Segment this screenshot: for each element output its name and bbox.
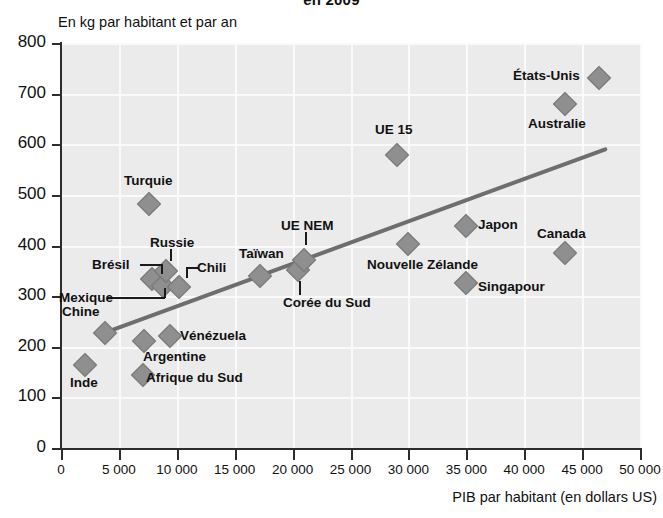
x-tick xyxy=(351,450,353,460)
y-tick-label: 500 xyxy=(0,184,46,204)
x-tick-label: 20 000 xyxy=(272,462,313,477)
y-tick xyxy=(52,94,61,96)
y-tick xyxy=(52,246,61,248)
x-tick xyxy=(235,450,237,460)
y-tick xyxy=(52,43,61,45)
point-label-japon: Japon xyxy=(478,218,518,232)
x-tick xyxy=(466,450,468,460)
y-tick-label: 0 xyxy=(0,437,46,457)
point-label-argentine: Argentine xyxy=(143,350,206,364)
y-tick-label: 800 xyxy=(0,32,46,52)
x-tick xyxy=(293,450,295,460)
gridline-horizontal xyxy=(61,397,640,399)
x-tick xyxy=(582,450,584,460)
x-tick xyxy=(524,450,526,460)
x-tick-label: 15 000 xyxy=(214,462,255,477)
x-tick-label: 50 000 xyxy=(619,462,660,477)
point-label-inde: Inde xyxy=(70,376,98,390)
point-label-turquie: Turquie xyxy=(124,174,173,188)
point-label-bresil: Brésil xyxy=(92,258,130,272)
y-tick xyxy=(52,397,61,399)
gridline-horizontal xyxy=(61,246,640,248)
point-label-australie: Australie xyxy=(528,117,586,131)
point-label-mexique: Mexique xyxy=(59,291,113,305)
point-label-venezuela: Vénézuela xyxy=(180,329,246,343)
point-label-afrique_du_sud: Afrique du Sud xyxy=(146,371,243,385)
y-tick xyxy=(52,144,61,146)
point-label-chine: Chine xyxy=(62,305,100,319)
y-tick xyxy=(52,195,61,197)
point-label-canada: Canada xyxy=(537,227,586,241)
y-tick-label: 400 xyxy=(0,235,46,255)
point-label-ue_nem: UE NEM xyxy=(281,219,334,233)
label-leader-line xyxy=(299,281,301,295)
label-leader-line xyxy=(161,264,163,274)
x-tick-label: 0 xyxy=(57,462,65,477)
y-tick-label: 700 xyxy=(0,83,46,103)
gridline-vertical xyxy=(640,43,642,448)
y-tick-label: 100 xyxy=(0,386,46,406)
x-tick-label: 5 000 xyxy=(102,462,136,477)
x-tick-label: 25 000 xyxy=(330,462,371,477)
label-leader-line xyxy=(305,232,307,245)
label-leader-line xyxy=(108,297,165,299)
gridline-horizontal xyxy=(61,43,640,45)
point-label-singapour: Singapour xyxy=(478,280,545,294)
point-label-coree_du_sud: Corée du Sud xyxy=(283,296,371,310)
x-tick xyxy=(177,450,179,460)
point-label-chili: Chili xyxy=(197,261,226,275)
point-label-etats_unis: États-Unis xyxy=(513,69,580,83)
y-tick-label: 300 xyxy=(0,285,46,305)
label-leader-line xyxy=(186,267,188,278)
chart-title: en 2009 xyxy=(0,0,663,8)
label-leader-line xyxy=(140,264,162,266)
y-tick-label: 600 xyxy=(0,133,46,153)
x-tick xyxy=(119,450,121,460)
x-tick-label: 40 000 xyxy=(504,462,545,477)
x-tick xyxy=(61,450,63,460)
y-tick xyxy=(52,347,61,349)
x-tick xyxy=(640,450,642,460)
chart-figure: en 2009 En kg par habitant et par an PIB… xyxy=(0,0,663,518)
point-label-taiwan: Taïwan xyxy=(239,247,284,261)
gridline-horizontal xyxy=(61,94,640,96)
x-tick xyxy=(408,450,410,460)
label-leader-line xyxy=(164,288,166,298)
point-label-nouvelle_zelande: Nouvelle Zélande xyxy=(367,258,478,272)
point-label-ue_15: UE 15 xyxy=(375,123,413,137)
gridline-horizontal xyxy=(61,144,640,146)
y-tick xyxy=(52,448,61,450)
x-tick-label: 35 000 xyxy=(446,462,487,477)
y-tick-label: 200 xyxy=(0,336,46,356)
y-axis-label: En kg par habitant et par an xyxy=(58,14,237,30)
x-tick-label: 45 000 xyxy=(561,462,602,477)
x-axis-label: PIB par habitant (en dollars US) xyxy=(452,489,657,505)
x-tick-label: 30 000 xyxy=(388,462,429,477)
point-label-russie: Russie xyxy=(150,236,194,250)
label-leader-line xyxy=(170,249,172,261)
x-tick-label: 10 000 xyxy=(156,462,197,477)
